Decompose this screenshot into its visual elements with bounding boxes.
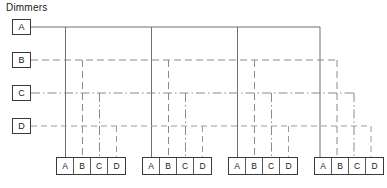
channel-cell-b: B bbox=[332, 158, 349, 174]
channel-cell-a: A bbox=[229, 158, 246, 174]
fixture-group-2: A B C D bbox=[142, 157, 212, 175]
fixture-group-4: A B C D bbox=[314, 157, 384, 175]
channel-cell-b: B bbox=[74, 158, 91, 174]
channel-cell-c: C bbox=[263, 158, 280, 174]
channel-cell-b: B bbox=[160, 158, 177, 174]
channel-cell-d: D bbox=[366, 158, 383, 174]
channel-cell-c: C bbox=[177, 158, 194, 174]
channel-cell-d: D bbox=[280, 158, 297, 174]
fixture-group-1: A B C D bbox=[56, 157, 126, 175]
channel-cell-d: D bbox=[108, 158, 125, 174]
channel-cell-c: C bbox=[349, 158, 366, 174]
dimmer-patch-diagram: Dimmers A B C D bbox=[0, 0, 387, 188]
channel-cell-a: A bbox=[143, 158, 160, 174]
fixture-group-3: A B C D bbox=[228, 157, 298, 175]
channel-cell-a: A bbox=[57, 158, 74, 174]
channel-cell-b: B bbox=[246, 158, 263, 174]
channel-cell-d: D bbox=[194, 158, 211, 174]
channel-cell-c: C bbox=[91, 158, 108, 174]
channel-cell-a: A bbox=[315, 158, 332, 174]
